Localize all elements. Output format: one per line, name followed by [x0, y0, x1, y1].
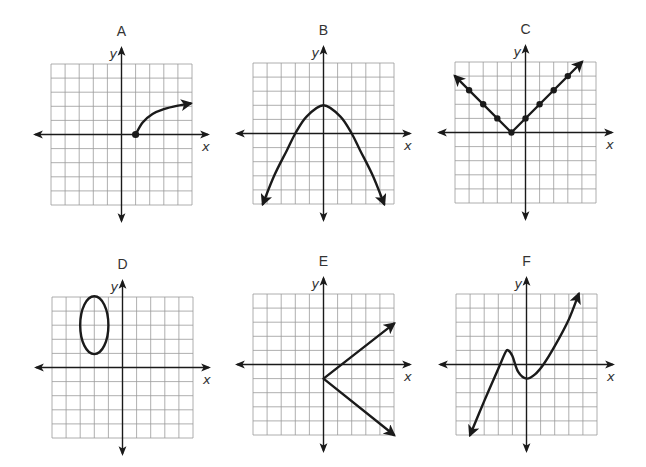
graph-panel-b: Bxy	[237, 22, 412, 220]
x-axis-label: x	[403, 138, 412, 153]
endpoint-dot	[132, 131, 139, 138]
x-axis-label: x	[201, 139, 210, 154]
graph-panel-a: Axy	[35, 23, 210, 221]
graph-panel-f: Fxy	[440, 253, 615, 451]
y-axis-label: y	[311, 276, 320, 291]
y-axis-label: y	[110, 279, 119, 294]
x-axis-label: x	[606, 369, 615, 384]
graph-panel-c: Cxy	[439, 21, 614, 219]
graph-panel-d: Dxy	[36, 256, 211, 454]
panel-title: D	[117, 256, 127, 272]
point-dot	[565, 73, 571, 79]
x-axis-label: x	[605, 137, 614, 152]
point-dot	[536, 101, 542, 107]
function-curve	[324, 324, 395, 435]
x-axis-label: x	[403, 369, 412, 384]
point-dot	[522, 115, 528, 121]
point-dot	[466, 87, 472, 93]
function-curve	[455, 62, 582, 133]
panel-title: B	[319, 22, 328, 38]
panel-title: E	[319, 253, 328, 269]
function-curve	[136, 103, 191, 134]
point-dot	[480, 101, 486, 107]
point-dot	[551, 87, 557, 93]
x-axis-label: x	[202, 372, 211, 387]
y-axis-label: y	[513, 44, 522, 59]
panel-title: C	[520, 21, 530, 37]
graph-panel-e: Exy	[237, 253, 412, 451]
y-axis-label: y	[109, 46, 118, 61]
panel-title: A	[117, 23, 127, 39]
point-dot	[508, 129, 514, 135]
point-dot	[494, 115, 500, 121]
panel-title: F	[522, 253, 531, 269]
function-graphs-figure: AxyBxyCxyDxyExyFxy	[0, 0, 646, 467]
y-axis-label: y	[311, 45, 320, 60]
y-axis-label: y	[514, 276, 523, 291]
